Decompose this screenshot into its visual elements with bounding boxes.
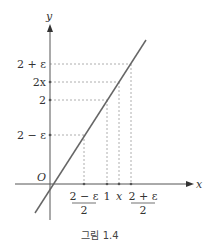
origin-label: O <box>37 171 46 184</box>
y-tick-2-minus-eps: 2 − ε <box>17 129 46 142</box>
figure-caption: 그림 1.4 <box>81 230 118 241</box>
function-line <box>35 40 146 213</box>
x-tick-2-minus-eps-den: 2 <box>81 204 88 217</box>
y-tick-2x: 2x <box>33 76 47 89</box>
y-axis-label: y <box>45 10 53 23</box>
function-diagram: y x O 2 + ε 2x 2 2 − ε 2 − ε 2 1 x 2 + ε… <box>0 0 204 251</box>
x-tick-1: 1 <box>104 190 111 203</box>
x-axis-arrow-icon <box>186 181 194 187</box>
x-tick-x: x <box>116 190 123 203</box>
y-tick-2: 2 <box>39 94 46 107</box>
y-axis-arrow-icon <box>47 24 53 32</box>
x-axis-label: x <box>196 178 203 191</box>
x-tick-2-minus-eps-num: 2 − ε <box>70 190 99 203</box>
x-tick-2-plus-eps-num: 2 + ε <box>129 190 158 203</box>
y-tick-2-plus-eps: 2 + ε <box>17 58 46 71</box>
tick-dots <box>49 81 133 186</box>
x-tick-2-plus-eps-den: 2 <box>140 204 147 217</box>
